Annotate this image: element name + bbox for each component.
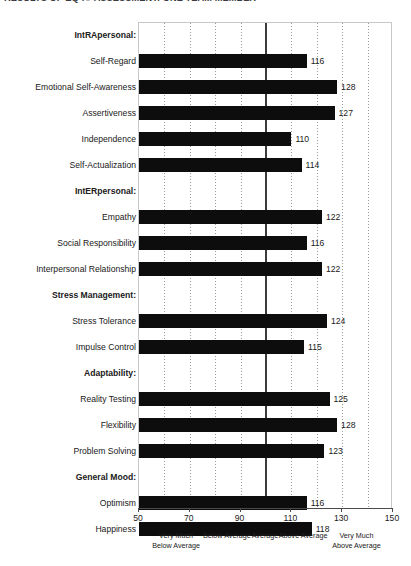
bar-value-label: 110 <box>291 126 309 152</box>
bar-value-label: 116 <box>307 48 325 74</box>
bar-row: Self-Regard116 <box>0 48 411 74</box>
bar-value-label: 128 <box>337 74 355 100</box>
category-label: Self-Actualization <box>70 152 136 178</box>
bar-container: 115 <box>139 334 392 360</box>
category-label: Problem Solving <box>73 438 136 464</box>
category-label: Independence <box>82 126 136 152</box>
bar-row: Emotional Self-Awareness128 <box>0 74 411 100</box>
category-label: Stress Tolerance <box>72 308 136 334</box>
category-label: Empathy <box>102 204 136 230</box>
x-axis-tick <box>392 508 393 512</box>
bar-row: Empathy122 <box>0 204 411 230</box>
bar-rows: IntRApersonal:Self-Regard116Emotional Se… <box>0 22 411 542</box>
group-header-row: Adaptability: <box>0 360 411 386</box>
bar <box>139 418 337 432</box>
x-axis-tick-label: 110 <box>284 513 298 523</box>
bar-container: 128 <box>139 74 392 100</box>
bar <box>139 210 322 224</box>
category-label: Optimism <box>100 490 136 516</box>
bar-value-label: 128 <box>337 412 355 438</box>
category-label: Flexibility <box>101 412 136 438</box>
group-header-label: IntRApersonal: <box>74 22 136 48</box>
x-axis-line <box>138 508 392 509</box>
category-label: Emotional Self-Awareness <box>35 74 136 100</box>
category-label: Self-Regard <box>90 48 136 74</box>
x-axis-tick <box>189 508 190 512</box>
bar-container: 116 <box>139 490 392 516</box>
bar <box>139 262 322 276</box>
group-header-row: IntERpersonal: <box>0 178 411 204</box>
bar <box>139 132 291 146</box>
bar-container: 127 <box>139 100 392 126</box>
x-axis-tick-label: 90 <box>235 513 245 523</box>
bar-value-label: 114 <box>302 152 320 178</box>
band-label: Average <box>252 531 279 540</box>
category-label: Impulse Control <box>76 334 136 360</box>
bar <box>139 444 324 458</box>
bar <box>139 106 335 120</box>
bar-row: Optimism116 <box>0 490 411 516</box>
chart-title: RESULTS OF EQ-i® ASSESSMENT: ONE TEAM ME… <box>4 0 404 5</box>
band-label: Very Much <box>339 531 373 540</box>
bar <box>139 236 307 250</box>
x-axis-tick <box>138 508 139 512</box>
group-header-label: Stress Management: <box>52 282 136 308</box>
category-label: Assertiveness <box>83 100 137 126</box>
bar <box>139 340 304 354</box>
bar-row: Flexibility128 <box>0 412 411 438</box>
band-label: Very Much <box>159 531 193 540</box>
bar-container: 122 <box>139 204 392 230</box>
band-label: Below Average <box>152 541 200 550</box>
bar-row: Independence110 <box>0 126 411 152</box>
bar-container: 116 <box>139 230 392 256</box>
x-axis-tick-label: 150 <box>385 513 399 523</box>
bar-value-label: 124 <box>327 308 345 334</box>
bar <box>139 80 337 94</box>
group-header-label: General Mood: <box>76 464 136 490</box>
category-label: Reality Testing <box>80 386 136 412</box>
bar <box>139 392 330 406</box>
band-label: Below Average <box>203 531 251 540</box>
bar-value-label: 127 <box>335 100 353 126</box>
bar-container: 122 <box>139 256 392 282</box>
x-axis-tick <box>240 508 241 512</box>
bar-value-label: 116 <box>307 490 325 516</box>
bar <box>139 54 307 68</box>
bar-container: 116 <box>139 48 392 74</box>
category-label: Interpersonal Relationship <box>36 256 136 282</box>
x-axis-tick-label: 70 <box>184 513 194 523</box>
bar-row: Reality Testing125 <box>0 386 411 412</box>
x-axis-tick-label: 50 <box>133 513 143 523</box>
bar-row: Problem Solving123 <box>0 438 411 464</box>
bar-value-label: 123 <box>324 438 342 464</box>
bar-row: Impulse Control115 <box>0 334 411 360</box>
bar-row: Self-Actualization114 <box>0 152 411 178</box>
band-label: Above Average <box>332 541 381 550</box>
bar-container: 110 <box>139 126 392 152</box>
bar-container: 128 <box>139 412 392 438</box>
category-label: Social Responsibility <box>57 230 136 256</box>
bar-value-label: 122 <box>322 256 340 282</box>
category-label: Happiness <box>95 516 136 542</box>
group-header-row: General Mood: <box>0 464 411 490</box>
bar <box>139 158 302 172</box>
x-axis-tick <box>290 508 291 512</box>
bar-row: Stress Tolerance124 <box>0 308 411 334</box>
x-axis-tick <box>341 508 342 512</box>
bar-container: 124 <box>139 308 392 334</box>
group-header-row: IntRApersonal: <box>0 22 411 48</box>
bar-value-label: 122 <box>322 204 340 230</box>
group-header-label: Adaptability: <box>84 360 136 386</box>
group-header-label: IntERpersonal: <box>75 178 136 204</box>
x-axis-tick-label: 130 <box>334 513 348 523</box>
band-label: Above Average <box>279 531 328 540</box>
group-header-row: Stress Management: <box>0 282 411 308</box>
bar-row: Social Responsibility116 <box>0 230 411 256</box>
bar-row: Interpersonal Relationship122 <box>0 256 411 282</box>
chart-root: RESULTS OF EQ-i® ASSESSMENT: ONE TEAM ME… <box>0 0 411 566</box>
bar-container: 123 <box>139 438 392 464</box>
bar-container: 114 <box>139 152 392 178</box>
bar-value-label: 125 <box>330 386 348 412</box>
bar-value-label: 115 <box>304 334 322 360</box>
bar <box>139 314 327 328</box>
